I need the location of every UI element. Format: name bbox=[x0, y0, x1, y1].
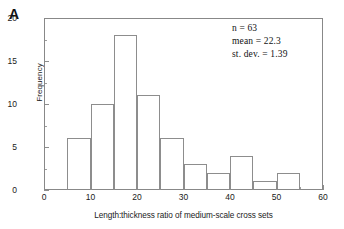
stat-stdev: st. dev. = 1.39 bbox=[232, 48, 288, 61]
y-axis-title: Frequency bbox=[35, 38, 44, 128]
x-tick-label: 50 bbox=[264, 193, 290, 202]
x-tick-label: 40 bbox=[217, 193, 243, 202]
histogram-figure: A Frequency 010203040506005101520 Length… bbox=[0, 0, 344, 229]
y-tick-label: 5 bbox=[0, 143, 17, 152]
x-tick-label: 20 bbox=[124, 193, 150, 202]
stat-mean: mean = 22.3 bbox=[232, 35, 288, 48]
y-tick-label: 20 bbox=[0, 14, 17, 23]
statistics-annotation: n = 63 mean = 22.3 st. dev. = 1.39 bbox=[232, 22, 288, 61]
x-axis-title: Length:thickness ratio of medium-scale c… bbox=[44, 211, 323, 220]
y-tick-label: 0 bbox=[0, 186, 17, 195]
x-tick-major bbox=[323, 185, 324, 190]
y-tick-label: 15 bbox=[0, 57, 17, 66]
x-tick-label: 60 bbox=[310, 193, 336, 202]
x-tick-label: 0 bbox=[31, 193, 57, 202]
y-tick-label: 10 bbox=[0, 100, 17, 109]
y-tick-major bbox=[44, 190, 49, 191]
x-tick-label: 30 bbox=[171, 193, 197, 202]
stat-n: n = 63 bbox=[232, 22, 288, 35]
x-tick-label: 10 bbox=[78, 193, 104, 202]
